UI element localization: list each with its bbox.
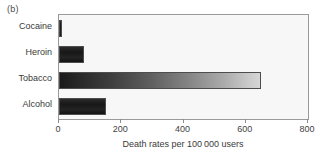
x-tick-600 [245,119,246,123]
bar-tobacco [59,72,261,89]
x-tick-0 [58,119,59,123]
x-tick-label-800: 800 [299,124,314,134]
x-tick-200 [120,119,121,123]
y-axis-label-cocaine: Cocaine [19,21,52,31]
x-tick-800 [307,119,308,123]
x-tick-label-0: 0 [55,124,60,134]
x-tick-label-600: 600 [237,124,252,134]
panel-label: (b) [7,4,19,14]
x-tick-label-400: 400 [175,124,190,134]
y-axis-category-labels: CocaineHeroinTobaccoAlcohol [0,14,55,118]
y-axis-label-heroin: Heroin [25,47,52,57]
x-axis-title: Death rates per 100 000 users [58,139,308,149]
y-axis-label-tobacco: Tobacco [18,73,52,83]
bar-alcohol [59,98,106,115]
figure-panel-b: (b) CocaineHeroinTobaccoAlcohol 02004006… [0,0,322,161]
bar-cocaine [59,20,62,37]
y-axis-label-alcohol: Alcohol [22,99,52,109]
x-tick-label-200: 200 [113,124,128,134]
x-tick-400 [183,119,184,123]
bar-heroin [59,46,84,63]
x-axis: 0200400600800 [58,119,308,141]
plot-area [58,14,309,120]
